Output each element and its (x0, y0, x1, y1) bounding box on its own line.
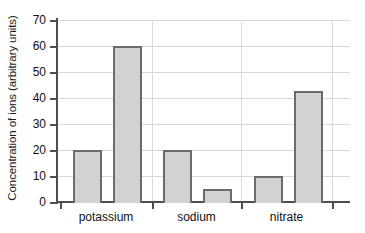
y-axis-tick-label: 10 (6, 170, 46, 182)
y-axis-tick-label: 40 (6, 92, 46, 104)
x-axis-tick (332, 202, 334, 209)
y-axis-tick-label: 50 (6, 66, 46, 78)
x-axis-tick (152, 202, 154, 209)
y-axis-tick (50, 150, 58, 152)
gridline-horizontal (58, 46, 350, 47)
y-axis-title: Concentration of ions (arbitrary units) (0, 0, 24, 215)
y-axis-tick-label: 70 (6, 14, 46, 26)
y-axis-tick (50, 46, 58, 48)
y-axis-tick-label: 20 (6, 144, 46, 156)
bar-sodium-1 (163, 150, 192, 203)
y-axis-tick (50, 20, 58, 22)
y-axis-tick (50, 98, 58, 100)
y-axis-tick-label: 30 (6, 118, 46, 130)
gridline-vertical (241, 20, 242, 202)
bar-nitrate-2 (294, 91, 323, 203)
y-axis-tick (50, 72, 58, 74)
bar-potassium-2 (113, 46, 142, 203)
x-axis-tick (241, 202, 243, 209)
gridline-vertical (152, 20, 153, 202)
x-axis-tick (60, 202, 62, 209)
gridline-horizontal (58, 72, 350, 73)
y-axis-tick (50, 176, 58, 178)
gridline-horizontal (58, 20, 350, 21)
bar-potassium-1 (73, 150, 102, 203)
x-axis-label-potassium: potassium (60, 210, 152, 224)
x-axis-label-nitrate: nitrate (241, 210, 332, 224)
bar-nitrate-1 (254, 176, 283, 203)
y-axis-tick (50, 202, 58, 204)
bar-sodium-2 (203, 189, 232, 203)
y-axis-tick-label: 60 (6, 40, 46, 52)
x-axis-label-sodium: sodium (152, 210, 241, 224)
bar-chart: Concentration of ions (arbitrary units) … (0, 0, 365, 233)
y-axis-tick-label: 0 (6, 196, 46, 208)
y-axis-tick (50, 124, 58, 126)
gridline-vertical (332, 20, 333, 202)
